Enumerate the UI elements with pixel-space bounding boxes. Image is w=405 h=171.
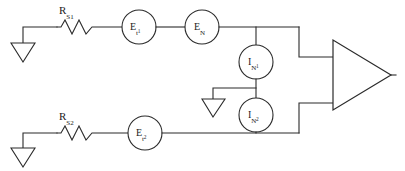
label-source-in2: IN2 (248, 110, 259, 123)
amplifier-triangle (333, 40, 391, 110)
wire-bottom-left-ground-stem (23, 133, 57, 148)
wire-top-left-ground-stem (23, 27, 57, 43)
label-source-en: EN (194, 22, 205, 35)
label-et1-subsub: 1 (138, 28, 141, 34)
wire-top-to-amp-input (299, 27, 333, 57)
label-source-et2: Et2 (136, 128, 147, 141)
resistor-rs1-zigzag (57, 20, 122, 34)
ground-bottom-left-triangle (11, 148, 35, 167)
ground-middle-triangle (202, 99, 225, 117)
label-et2-subsub: 2 (144, 134, 147, 140)
label-source-in1: IN1 (248, 57, 259, 70)
circuit-diagram-canvas: RS1 RS2 Et1 EN Et2 IN1 IN2 (0, 0, 405, 171)
label-source-et1: Et1 (130, 22, 141, 35)
resistor-rs2-zigzag (57, 126, 128, 140)
label-rs2-sub: S2 (66, 119, 73, 127)
label-resistor-rs1: RS1 (59, 5, 74, 19)
label-rs1-sub: S1 (66, 13, 73, 21)
wire-bottom-to-amp-input (299, 103, 333, 133)
label-resistor-rs2: RS2 (59, 111, 74, 125)
label-en-sub: N (200, 29, 205, 37)
wire-middle-ground-stem (213, 88, 256, 99)
label-in2-subsub: 2 (256, 116, 259, 122)
ground-top-left-triangle (11, 43, 35, 62)
label-in1-subsub: 1 (256, 63, 259, 69)
